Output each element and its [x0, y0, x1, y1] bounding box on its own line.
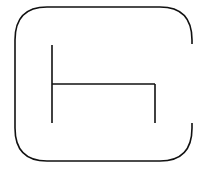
icon-canvas [0, 0, 206, 170]
bracket-box-icon [0, 0, 206, 170]
